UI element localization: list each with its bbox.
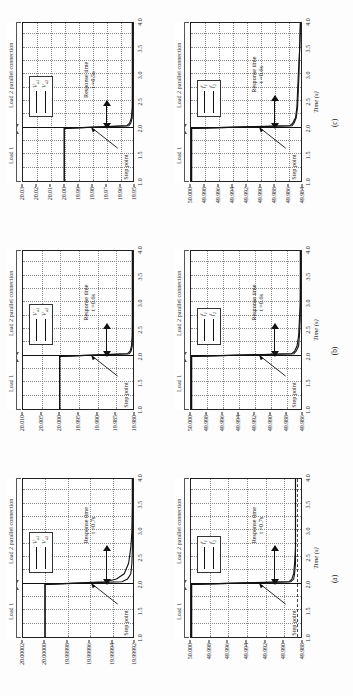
x-axis-ticks: 1.01.52.02.53.03.54.0	[136, 250, 150, 410]
chart-panel-a-bottom: Load 1Load 2 parallel connection50.00049…	[172, 468, 330, 690]
y-tick-mark	[134, 640, 135, 643]
y-tick-label: 49.988	[283, 415, 289, 431]
load2-span-bar	[184, 250, 185, 357]
x-tick-label: 1.5	[305, 152, 311, 160]
x-tick-label: 1.0	[137, 178, 143, 186]
x-axis-ticks: 1.01.52.02.53.03.54.0	[136, 478, 150, 638]
x-axis-title-symbol: Time	[312, 328, 319, 341]
response-time-value: t =0.6s	[257, 56, 264, 92]
x-tick-label: 3.0	[305, 72, 311, 80]
y-axis-ticks: 50.00049.99849.99649.99449.99249.99049.9…	[190, 640, 302, 690]
plot-area-b-top: Step pointResponse timet =0.6sVo1Vo2	[22, 250, 134, 410]
x-tick-label: 4.0	[305, 474, 311, 482]
legend-line-2	[45, 547, 46, 569]
load1-span-label: Load 1	[6, 585, 16, 638]
y-tick-mark	[66, 640, 67, 643]
y-tick-label: 49.992	[262, 643, 268, 659]
y-tick-label: 19.99996	[86, 643, 92, 665]
y-tick-label: 50.000	[187, 415, 193, 431]
load2-span-label: Load 2 parallel connection	[6, 22, 16, 129]
y-tick-mark	[222, 412, 223, 415]
chart-column-a: Load 1Load 2 parallel connection20.00002…	[0, 468, 353, 690]
legend-box: f1f2	[197, 536, 221, 573]
legend-row-1: f1	[200, 540, 209, 569]
legend-label-2: f2	[209, 312, 218, 316]
x-axis-title-unit: (s)	[312, 547, 319, 554]
response-time-annotation: Response timet =0.6s	[250, 56, 264, 92]
x-tick-label: 3.5	[305, 273, 311, 281]
legend-line-1	[36, 319, 37, 341]
x-tick-label: 1.5	[137, 380, 143, 388]
y-tick-label: 49.984	[299, 187, 305, 203]
y-tick-mark	[288, 184, 289, 187]
y-tick-mark	[270, 412, 271, 415]
y-tick-mark	[232, 184, 233, 187]
x-axis-title-symbol: Time	[312, 100, 319, 113]
x-tick-label: 4.0	[137, 18, 143, 26]
legend-label-2: Vo2	[41, 80, 50, 88]
y-tick-mark	[40, 412, 41, 415]
legend-label-2: Vo2	[41, 536, 50, 544]
legend-line-1	[204, 319, 205, 341]
y-tick-label: 49.994	[235, 415, 241, 431]
y-tick-label: 20.000	[56, 415, 62, 431]
x-axis-title-unit: (s)	[312, 91, 319, 98]
response-time-value: t =0.7s	[89, 507, 96, 543]
y-tick-mark	[22, 412, 23, 415]
load-span-group: Load 1Load 2 parallel connection	[174, 22, 189, 182]
y-tick-label: 19.995	[75, 415, 81, 431]
legend-line-2	[213, 91, 214, 113]
x-axis-title: Time (s)	[312, 250, 319, 410]
x-tick-label: 3.5	[305, 501, 311, 509]
load2-span-bar	[16, 478, 17, 585]
load2-span-bar	[16, 250, 17, 357]
y-tick-mark	[260, 184, 261, 187]
chart-panel-c-bottom: Load 1Load 2 parallel connection50.00049…	[172, 12, 330, 234]
legend-box: Vo1Vo2	[29, 304, 53, 345]
y-tick-mark	[120, 184, 121, 187]
y-tick-label: 49.996	[219, 415, 225, 431]
y-tick-label: 19.99994	[109, 643, 115, 665]
legend-row-1: f1	[200, 312, 209, 341]
y-tick-label: 19.99998	[64, 643, 70, 665]
response-time-label: Response time	[250, 56, 257, 92]
response-time-annotation: Response timet =0.6s	[250, 284, 264, 320]
load-span-group: Load 1Load 2 parallel connection	[174, 478, 189, 638]
legend-box: Vo1Vo2	[29, 76, 53, 117]
y-tick-mark	[115, 412, 116, 415]
y-tick-label: 20.03	[19, 187, 25, 200]
y-tick-mark	[106, 184, 107, 187]
x-tick-label: 3.5	[137, 501, 143, 509]
x-tick-label: 2.0	[305, 581, 311, 589]
y-tick-mark	[264, 640, 265, 643]
y-tick-label: 49.990	[267, 415, 273, 431]
plot-frame: Step pointResponse timet =0.6sVo1Vo2	[22, 250, 134, 410]
x-tick-label: 3.0	[305, 528, 311, 536]
x-tick-label: 3.5	[137, 45, 143, 53]
y-tick-label: 20.00002	[19, 643, 25, 665]
y-tick-label: 49.994	[243, 643, 249, 659]
y-tick-label: 49.988	[271, 187, 277, 203]
plot-area-a-bottom: Step pointResponse timet =0.7sf1f2	[190, 478, 302, 638]
x-tick-label: 3.0	[137, 72, 143, 80]
plot-frame: Step pointResponse timet =0.7sVo1Vo2	[22, 478, 134, 638]
y-tick-label: 19.96	[117, 187, 123, 200]
x-tick-label: 2.5	[305, 98, 311, 106]
y-tick-label: 20.005	[38, 415, 44, 431]
legend-line-1	[36, 547, 37, 569]
legend-line-1	[204, 547, 205, 569]
y-axis-ticks: 50.00049.99849.99649.99449.99249.99049.9…	[190, 412, 302, 462]
response-time-annotation: Response timet =0.6s	[82, 284, 96, 320]
x-tick-label: 1.0	[137, 406, 143, 414]
legend-row-2: f2	[209, 312, 218, 341]
load1-span-bar	[184, 585, 185, 638]
plot-frame: Step pointResponse timet =0.6sf1f2	[190, 22, 302, 182]
y-tick-mark	[92, 184, 93, 187]
y-tick-mark	[111, 640, 112, 643]
y-tick-label: 49.996	[224, 643, 230, 659]
legend-label-2: f2	[209, 84, 218, 88]
x-axis-title: Time (s)	[312, 478, 319, 638]
chart-column-c: Load 1Load 2 parallel connection20.0320.…	[0, 12, 353, 234]
x-tick-label: 2.5	[137, 554, 143, 562]
x-axis-title-symbol: Time	[312, 556, 319, 569]
